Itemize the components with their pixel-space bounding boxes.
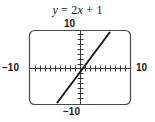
x-axis-max-label: 10 (136, 62, 147, 73)
y-axis-max-label: 10 (64, 18, 75, 29)
graph-figure: y = 2x + 1 (0, 0, 155, 122)
y-axis-min-label: −10 (63, 106, 80, 117)
x-axis-min-label: −10 (2, 62, 19, 73)
coordinate-plane (0, 0, 155, 122)
